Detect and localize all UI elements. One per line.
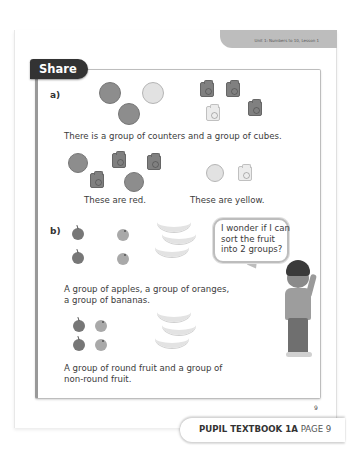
- orange: [117, 229, 129, 241]
- part-a-sentence: There is a group of counters and a group…: [64, 131, 282, 142]
- apple: [73, 320, 85, 332]
- red-cube: [248, 101, 262, 116]
- orange: [117, 253, 129, 265]
- red-cube: [200, 82, 214, 97]
- red-cube: [112, 153, 126, 168]
- red-group-caption: These are red.: [84, 195, 146, 206]
- unit-lesson-tab: Unit 1: Numbers to 10, Lesson 1: [220, 30, 337, 48]
- red-counter: [118, 103, 140, 125]
- speech-line-1: I wonder if I can: [221, 223, 287, 234]
- speech-line-3: into 2 groups?: [221, 244, 287, 255]
- boy-character-illustration: [278, 260, 320, 386]
- boy-hair: [286, 260, 310, 276]
- yellow-counter: [206, 164, 224, 182]
- orange: [95, 320, 107, 332]
- red-cube: [147, 155, 161, 170]
- red-cube: [226, 82, 240, 97]
- yellow-counter: [142, 82, 164, 104]
- yellow-group-caption: These are yellow.: [190, 195, 265, 206]
- apple: [72, 228, 84, 240]
- part-a-label: a): [50, 90, 60, 100]
- page-number: 9: [314, 404, 318, 411]
- orange: [95, 339, 107, 351]
- part-b-sentence-line-2: a group of bananas.: [64, 295, 150, 306]
- footer-page-label: PAGE 9: [301, 424, 332, 434]
- yellow-cube: [206, 106, 220, 121]
- apple: [72, 252, 84, 264]
- red-counter: [124, 172, 144, 192]
- speech-line-2: sort the fruit: [221, 234, 287, 245]
- section-title: Share: [39, 62, 77, 76]
- boy-jacket: [285, 288, 311, 320]
- footer-book-title: PUPIL TEXTBOOK 1A: [199, 424, 298, 434]
- boy-shoes: [286, 352, 312, 357]
- speech-bubble: I wonder if I can sort the fruit into 2 …: [213, 218, 289, 263]
- unit-label: Unit 1: Numbers to 10, Lesson 1: [254, 38, 319, 43]
- yellow-cube: [238, 166, 252, 181]
- apple: [73, 339, 85, 351]
- red-cube: [90, 173, 104, 188]
- section-title-tag: Share: [30, 59, 88, 79]
- part-b-label: b): [50, 226, 61, 236]
- footer-tab: PUPIL TEXTBOOK 1A PAGE 9: [180, 418, 345, 442]
- conclusion-line-2: non-round fruit.: [64, 374, 131, 385]
- part-b-sentence-line-1: A group of apples, a group of oranges,: [64, 284, 229, 295]
- conclusion-line-1: A group of round fruit and a group of: [64, 363, 222, 374]
- red-counter: [68, 153, 88, 173]
- red-counter: [99, 82, 121, 104]
- boy-legs: [288, 318, 308, 354]
